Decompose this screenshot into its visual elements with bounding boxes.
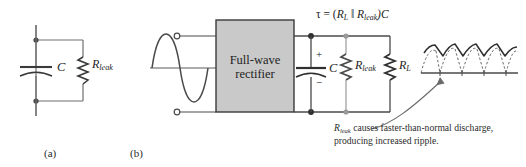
panel-a-resistor-icon [78,57,88,84]
figure-filter-capacitor-leakage: C Rleak Full-wave rectifier τ = (RL ‖ Rl… [0,0,526,167]
panel-a-circuit [20,25,88,116]
panel-a-capacitor-label: C [57,60,65,74]
rleak-resistor-icon [341,36,351,112]
capacitor-plus-sign: + [316,48,322,60]
panel-b-label: (b) [130,147,143,159]
panel-a-label: (a) [44,147,56,159]
tau-prefix: τ = ( [316,8,337,20]
rl-load-resistor-label: RL [399,59,411,73]
tau-suffix: )C [377,8,389,20]
rl-load-resistor-icon [385,36,395,112]
input-terminal-bottom [174,109,180,115]
output-ripple-waveform [421,44,518,76]
caption-line-1-rest: causes faster-than-normal discharge, [351,122,493,133]
time-constant-equation: τ = (RL ‖ Rleak)C [316,8,389,23]
tau-rl-main: R [337,8,344,20]
rleak-resistor-label: Rleak [355,59,376,73]
rectifier-block-label: Full-wave rectifier [216,53,294,81]
panel-a-rleak-label: Rleak [92,58,113,72]
ripple-explanation-caption: Rleak causes faster-than-normal discharg… [334,122,493,148]
rectifier-block-line1: Full-wave [216,53,294,67]
panel-a-rleak-label-sub: leak [99,63,113,72]
capacitor-minus-sign: − [316,76,322,88]
rectifier-block-line2: rectifier [216,67,294,81]
input-terminal-top [174,33,180,39]
tau-rleak-sub: leak [364,13,377,22]
caption-line-1: Rleak causes faster-than-normal discharg… [334,122,493,135]
caption-line-2: producing increased ripple. [334,135,493,148]
rl-label-sub: L [406,64,411,73]
rleak-label-sub: leak [362,64,376,73]
tau-parallel-symbol: ‖ [348,8,357,20]
filter-capacitor-label: C [329,61,337,75]
caption-rleak-sub: leak [340,127,351,134]
input-sine-waveform [150,34,218,102]
